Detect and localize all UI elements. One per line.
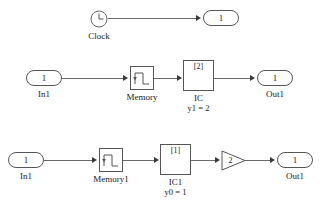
ic1-sublabel-row3: y0 = 1 <box>148 188 203 198</box>
outport-label-row2: Out1 <box>253 89 297 99</box>
outport-block-row1[interactable]: 1 <box>203 10 239 26</box>
inport-block-row2[interactable]: 1 <box>26 70 62 86</box>
wire-memory-to-ic-row3 <box>123 160 156 161</box>
memory-icon <box>100 149 122 171</box>
wire-in-to-memory-row3 <box>44 160 94 161</box>
clock-icon <box>90 10 108 28</box>
wire-gain-to-out-row3 <box>245 160 272 161</box>
wire-in-to-memory-row2 <box>62 78 125 79</box>
ic-label-row2: IC <box>176 93 221 103</box>
wire-memory-to-ic-row2 <box>154 78 179 79</box>
ic1-label-row3: IC1 <box>153 177 198 187</box>
outport-block-row3[interactable]: 1 <box>277 152 313 168</box>
gain-value-row3: 2 <box>221 150 240 171</box>
memory-icon <box>131 67 153 89</box>
ic-value-row3: [1] <box>171 146 180 155</box>
gain-block-row3[interactable]: 2 <box>221 150 246 171</box>
outport-block-row2[interactable]: 1 <box>257 70 293 86</box>
memory-label-row2: Memory <box>113 92 171 102</box>
arrow-icon <box>177 75 182 81</box>
arrow-icon <box>215 157 220 163</box>
inport-label-row3: In1 <box>4 171 48 181</box>
outport-value: 1 <box>273 74 278 83</box>
wire-clock-to-out <box>108 18 198 19</box>
inport-value: 1 <box>24 156 29 165</box>
block-diagram-canvas: Clock 1 1 In1 Memory [2] IC y1 = 2 1 Out… <box>0 0 320 206</box>
memory-block-row2[interactable] <box>130 66 154 90</box>
outport-label-row3: Out1 <box>273 171 317 181</box>
arrow-icon <box>196 15 201 21</box>
clock-block[interactable] <box>90 10 108 28</box>
ic-block-row2[interactable]: [2] <box>183 60 214 91</box>
outport-value: 1 <box>293 156 298 165</box>
inport-value: 1 <box>42 74 47 83</box>
arrow-icon <box>270 157 275 163</box>
ic-value-row2: [2] <box>194 62 203 71</box>
wire-ic-to-gain-row3 <box>191 160 217 161</box>
ic1-block-row3[interactable]: [1] <box>160 144 191 175</box>
memory1-label-row3: Memory1 <box>80 174 142 184</box>
arrow-icon <box>123 75 128 81</box>
ic-sublabel-row2: y1 = 2 <box>171 104 226 114</box>
clock-label: Clock <box>75 31 123 41</box>
inport-label-row2: In1 <box>22 89 66 99</box>
inport-block-row3[interactable]: 1 <box>8 152 44 168</box>
outport-value: 1 <box>219 14 224 23</box>
arrow-icon <box>92 157 97 163</box>
memory1-block-row3[interactable] <box>99 148 123 172</box>
arrow-icon <box>154 157 159 163</box>
wire-ic-to-out-row2 <box>214 78 252 79</box>
arrow-icon <box>250 75 255 81</box>
